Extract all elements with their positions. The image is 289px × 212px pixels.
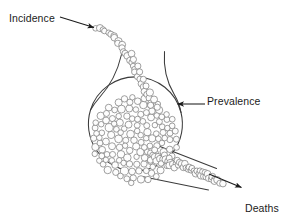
particle	[133, 107, 139, 113]
particle	[104, 166, 111, 173]
particle	[116, 144, 123, 151]
particle	[154, 104, 160, 110]
particle	[125, 121, 132, 128]
particle	[167, 146, 173, 152]
particle	[143, 168, 149, 174]
particle	[174, 145, 180, 151]
particle	[108, 131, 115, 138]
particle	[159, 114, 165, 120]
particle	[128, 180, 133, 185]
particle	[118, 130, 124, 136]
funnel-right-wall	[164, 52, 181, 113]
prevalence-particles	[91, 95, 180, 186]
particle	[111, 121, 116, 126]
particle	[134, 122, 140, 128]
particle	[134, 161, 140, 167]
particle	[165, 125, 171, 131]
particle	[105, 104, 112, 111]
particle	[92, 151, 98, 157]
prevalence-label: Prevalence	[207, 96, 261, 108]
particle	[135, 116, 141, 122]
particle	[103, 117, 110, 124]
particle	[126, 161, 132, 167]
particle	[115, 135, 123, 143]
particle	[130, 95, 135, 100]
particle	[116, 113, 122, 119]
particle	[162, 135, 168, 141]
particle	[173, 136, 179, 142]
particle	[99, 146, 106, 153]
particle	[121, 160, 126, 165]
particle	[121, 96, 127, 102]
particle	[143, 110, 149, 116]
particle	[126, 147, 132, 153]
particle	[143, 83, 149, 89]
deaths-cures-label: Deaths Cures	[245, 180, 279, 212]
particle	[145, 176, 151, 182]
particle	[169, 116, 175, 122]
particle	[152, 147, 158, 153]
particle	[112, 107, 118, 113]
particle	[103, 157, 108, 162]
particle	[157, 167, 164, 174]
particle	[136, 168, 142, 174]
particle	[94, 131, 100, 137]
particle	[92, 125, 98, 131]
particle	[144, 129, 151, 136]
particle	[93, 120, 99, 126]
particle	[112, 162, 119, 169]
particle	[220, 180, 227, 187]
diagram-canvas: Incidence Prevalence Deaths Cures	[0, 0, 289, 212]
particle	[147, 143, 153, 149]
particle	[135, 63, 141, 69]
particle	[102, 138, 109, 145]
particle	[146, 89, 153, 96]
particle	[172, 128, 178, 134]
particle	[126, 105, 133, 112]
particle	[141, 145, 147, 151]
particle	[153, 174, 159, 180]
particle	[103, 110, 109, 116]
particle	[148, 102, 154, 108]
incidence-label: Incidence	[9, 13, 55, 25]
particle	[127, 130, 135, 138]
particle	[134, 128, 140, 134]
particle	[160, 129, 166, 135]
particle	[140, 76, 146, 82]
particle	[110, 151, 116, 157]
particle	[137, 176, 144, 183]
particle	[151, 96, 158, 103]
deaths-label: Deaths	[245, 203, 279, 212]
incidence-arrow	[60, 17, 94, 28]
particle	[129, 168, 136, 175]
particle	[155, 136, 161, 142]
particle	[143, 136, 148, 141]
particle	[141, 161, 147, 167]
particle	[137, 69, 143, 75]
particle	[123, 137, 129, 143]
particle	[134, 98, 141, 105]
particle	[130, 56, 136, 62]
particle	[129, 116, 135, 122]
particle	[97, 140, 103, 146]
particle	[109, 143, 116, 150]
particle	[116, 119, 123, 126]
particle	[150, 164, 156, 170]
particle	[118, 173, 124, 179]
